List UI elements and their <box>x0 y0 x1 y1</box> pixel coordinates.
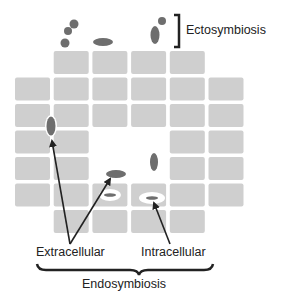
microbe-extracellular-left <box>47 117 56 136</box>
microbe-round <box>70 20 79 29</box>
host-cell <box>209 131 244 154</box>
host-cell <box>15 157 50 180</box>
host-cell <box>54 51 89 74</box>
host-cell <box>209 157 244 180</box>
ectosymbiosis-bracket <box>174 15 179 47</box>
microbe-intracellular <box>146 196 158 200</box>
host-cell <box>92 104 127 127</box>
host-cell <box>92 51 127 74</box>
host-cell <box>170 51 205 74</box>
host-cell <box>170 157 205 180</box>
host-cell <box>209 104 244 127</box>
microbe-rod <box>151 26 160 44</box>
ectosymbionts <box>61 17 167 48</box>
endosymbiosis-label: Endosymbiosis <box>82 277 166 291</box>
host-cell <box>209 78 244 101</box>
host-cell <box>131 51 166 74</box>
extracellular-label: Extracellular <box>36 245 105 259</box>
host-cell <box>54 184 89 207</box>
host-cell <box>131 104 166 127</box>
host-cell <box>170 210 205 233</box>
host-cell <box>170 131 205 154</box>
host-cell <box>15 78 50 101</box>
host-cell <box>131 78 166 101</box>
intracellular-label: Intracellular <box>141 245 206 259</box>
microbe-in-lumen <box>150 153 158 171</box>
host-cell <box>170 78 205 101</box>
host-cell <box>92 210 127 233</box>
microbe-round <box>61 39 70 48</box>
microbe-oval <box>93 38 113 46</box>
microbe-round <box>158 17 166 25</box>
ectosymbiosis-label: Ectosymbiosis <box>186 23 266 37</box>
endosymbiosis-brace <box>37 264 213 275</box>
host-cell <box>54 131 89 154</box>
host-cell <box>170 184 205 207</box>
host-cell <box>92 78 127 101</box>
host-cell <box>209 184 244 207</box>
microbe-intracellular <box>104 193 116 197</box>
host-cell <box>15 104 50 127</box>
host-cell <box>170 104 205 127</box>
host-cell <box>54 104 89 127</box>
host-cell <box>54 78 89 101</box>
microbe-extracellular-lumen <box>106 170 126 178</box>
microbe-round <box>64 27 72 35</box>
host-tissue-cells <box>15 51 244 233</box>
host-cell <box>15 131 50 154</box>
host-cell <box>15 184 50 207</box>
